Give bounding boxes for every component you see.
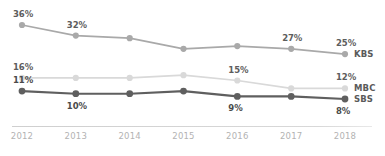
x-tick-2014: 2014 [113, 131, 147, 141]
value-label-mbc-2018: 12% [336, 72, 356, 82]
data-point-kbs-2017[interactable] [288, 46, 294, 52]
data-point-mbc-2016[interactable] [234, 77, 240, 83]
value-label-sbs-2016: 9% [228, 103, 242, 113]
value-label-kbs-2012: 36% [13, 9, 33, 19]
value-label-kbs-2018: 25% [336, 38, 356, 48]
data-point-sbs-2018[interactable] [342, 96, 349, 103]
data-point-mbc-2013[interactable] [73, 75, 79, 81]
data-point-mbc-2018[interactable] [342, 85, 348, 91]
x-axis-line [12, 126, 372, 127]
value-label-mbc-2012: 16% [13, 62, 33, 72]
data-point-kbs-2013[interactable] [73, 33, 79, 39]
data-point-mbc-2015[interactable] [180, 72, 186, 78]
data-point-sbs-2017[interactable] [288, 93, 295, 100]
data-point-sbs-2016[interactable] [234, 93, 241, 100]
value-label-sbs-2012: 11% [13, 75, 33, 85]
series-label-sbs: SBS [354, 94, 373, 104]
x-tick-2017: 2017 [274, 131, 308, 141]
x-tick-2015: 2015 [167, 131, 201, 141]
value-label-mbc-2016: 15% [228, 65, 248, 75]
data-point-kbs-2016[interactable] [234, 43, 240, 49]
data-point-mbc-2014[interactable] [127, 75, 133, 81]
value-label-kbs-2013: 32% [67, 20, 87, 30]
value-label-kbs-2017: 27% [282, 33, 302, 43]
data-point-kbs-2012[interactable] [19, 22, 25, 28]
x-tick-2018: 2018 [328, 131, 362, 141]
series-label-kbs: KBS [354, 49, 374, 59]
data-point-sbs-2013[interactable] [72, 90, 79, 97]
data-point-kbs-2014[interactable] [127, 35, 133, 41]
line-chart: 2012201320142015201620172018 36%32%27%25… [0, 0, 385, 156]
data-point-sbs-2015[interactable] [180, 88, 187, 95]
data-point-sbs-2012[interactable] [19, 88, 26, 95]
data-point-sbs-2014[interactable] [126, 90, 133, 97]
series-label-mbc: MBC [354, 83, 375, 93]
data-point-kbs-2015[interactable] [180, 46, 186, 52]
x-tick-2016: 2016 [220, 131, 254, 141]
x-tick-2012: 2012 [5, 131, 39, 141]
data-point-kbs-2018[interactable] [342, 51, 348, 57]
data-point-mbc-2017[interactable] [288, 85, 294, 91]
value-label-sbs-2013: 10% [67, 101, 87, 111]
value-label-sbs-2018: 8% [336, 106, 350, 116]
x-tick-2013: 2013 [59, 131, 93, 141]
